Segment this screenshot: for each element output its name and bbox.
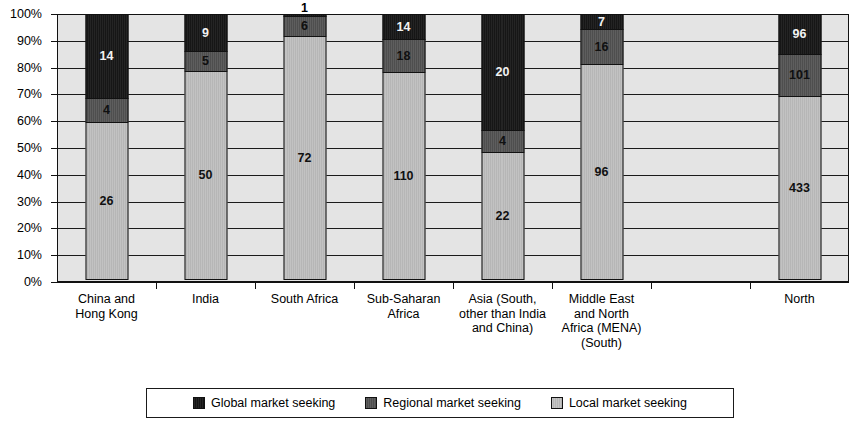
legend-item[interactable]: Regional market seeking	[365, 397, 521, 410]
y-tick-label: 80%	[17, 61, 42, 74]
bar-value-label: 6	[301, 20, 308, 33]
y-tick-label: 0%	[24, 276, 42, 289]
bar-value-label: 4	[103, 104, 110, 117]
bar-value-label: 96	[595, 166, 609, 179]
legend-label: Local market seeking	[569, 397, 687, 410]
y-tick-label: 70%	[17, 88, 42, 101]
legend-label: Global market seeking	[211, 397, 335, 410]
bar-segment-global[interactable]: 14	[85, 14, 128, 99]
legend-label: Regional market seeking	[383, 397, 521, 410]
y-tick-label: 100%	[10, 8, 42, 21]
bar-value-label: 9	[202, 27, 209, 40]
y-tick-label: 60%	[17, 115, 42, 128]
y-tick-label: 50%	[17, 142, 42, 155]
bar-segment-regional[interactable]: 16	[580, 29, 623, 65]
bar-segment-regional[interactable]: 6	[283, 16, 326, 36]
bar-value-label: 4	[499, 135, 506, 148]
x-tick-mark	[354, 282, 355, 289]
bar-segment-local[interactable]: 26	[85, 122, 128, 280]
bar-group	[651, 14, 750, 282]
bar-segment-local[interactable]: 22	[481, 152, 524, 280]
x-tick-mark	[255, 282, 256, 289]
bar-segment-regional[interactable]: 5	[184, 51, 227, 72]
bar-value-label: 14	[100, 50, 114, 63]
local-swatch	[551, 397, 563, 409]
legend-item[interactable]: Global market seeking	[193, 397, 335, 410]
stacked-bar[interactable]: 71696	[580, 14, 623, 282]
x-axis-label-line: Middle East	[498, 292, 706, 307]
bar-segment-regional[interactable]: 4	[85, 98, 128, 122]
legend-item[interactable]: Local market seeking	[551, 397, 687, 410]
bars-layer: 14426955016721418110204227169696101433	[57, 14, 849, 282]
x-axis-ticks	[57, 282, 849, 289]
stacked-bar[interactable]: 9550	[184, 14, 227, 282]
bar-value-label: 72	[298, 152, 312, 165]
bar-value-label: 16	[595, 41, 609, 54]
bar-value-label: 26	[100, 195, 114, 208]
stacked-bar[interactable]: 1418110	[382, 14, 425, 282]
bar-segment-global[interactable]: 7	[580, 14, 623, 30]
bar-group: 71696	[552, 14, 651, 282]
x-tick-mark	[552, 282, 553, 289]
bar-group: 1672	[255, 14, 354, 282]
bar-segment-regional[interactable]: 101	[778, 54, 821, 97]
stacked-bar[interactable]: 1672	[283, 14, 326, 282]
bar-group: 20422	[453, 14, 552, 282]
bar-value-label: 20	[496, 66, 510, 79]
chart-legend: Global market seekingRegional market see…	[146, 388, 734, 418]
stacked-bar-chart: 0%10%20%30%40%50%60%70%80%90%100% 144269…	[0, 0, 859, 436]
bar-segment-local[interactable]: 72	[283, 36, 326, 280]
bar-group: 14426	[57, 14, 156, 282]
bar-segment-local[interactable]: 433	[778, 96, 821, 280]
bar-segment-local[interactable]: 96	[580, 64, 623, 280]
bar-value-label: 7	[598, 16, 605, 29]
regional-swatch	[365, 397, 377, 409]
x-axis-category-label: Middle Eastand NorthAfrica (MENA)(South)	[498, 292, 706, 350]
bar-value-label: 101	[789, 69, 810, 82]
bar-value-label: 96	[793, 28, 807, 41]
y-tick-label: 90%	[17, 35, 42, 48]
bar-value-label: 110	[393, 170, 413, 183]
bar-segment-global[interactable]: 14	[382, 14, 425, 40]
bar-segment-local[interactable]: 50	[184, 71, 227, 280]
bar-segment-global[interactable]: 20	[481, 14, 524, 131]
stacked-bar[interactable]: 20422	[481, 14, 524, 282]
bar-segment-global[interactable]: 9	[184, 14, 227, 52]
bar-value-label: 5	[202, 55, 209, 68]
y-tick-label: 30%	[17, 195, 42, 208]
stacked-bar[interactable]: 14426	[85, 14, 128, 282]
bar-value-label: 50	[199, 169, 213, 182]
x-tick-mark	[651, 282, 652, 289]
x-tick-mark	[156, 282, 157, 289]
x-axis-labels: China andHong KongIndiaSouth AfricaSub-S…	[57, 292, 849, 382]
x-axis-label-line: Africa (MENA)	[498, 321, 706, 336]
bar-value-label: 1	[301, 2, 308, 15]
y-tick-label: 10%	[17, 249, 42, 262]
bar-segment-regional[interactable]: 18	[382, 39, 425, 73]
bar-segment-global[interactable]: 96	[778, 14, 821, 55]
y-axis: 0%10%20%30%40%50%60%70%80%90%100%	[0, 0, 50, 296]
bar-value-label: 18	[397, 50, 411, 63]
bar-segment-local[interactable]: 110	[382, 72, 425, 280]
bar-group: 96101433	[750, 14, 849, 282]
bar-value-label: 14	[397, 21, 411, 34]
x-tick-mark	[750, 282, 751, 289]
x-tick-mark	[453, 282, 454, 289]
bar-group: 1418110	[354, 14, 453, 282]
bar-segment-regional[interactable]: 4	[481, 130, 524, 153]
stacked-bar[interactable]: 96101433	[778, 14, 821, 282]
x-axis-label-line: Hong Kong	[3, 307, 211, 322]
global-swatch	[193, 397, 205, 409]
bar-group: 9550	[156, 14, 255, 282]
bar-value-label: 22	[496, 210, 510, 223]
y-tick-label: 40%	[17, 169, 42, 182]
x-axis-label-line: North	[696, 292, 859, 307]
x-axis-category-label: North	[696, 292, 859, 307]
bar-value-label: 433	[789, 182, 810, 195]
y-tick-label: 20%	[17, 222, 42, 235]
x-axis-label-line: (South)	[498, 336, 706, 351]
x-axis-label-line: and North	[498, 307, 706, 322]
